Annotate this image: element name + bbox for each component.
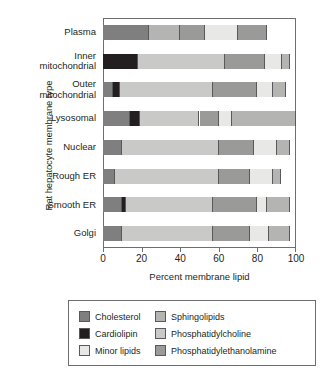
legend-item-minor[interactable]: Minor lipids: [79, 345, 155, 356]
bar-segment-pc: [126, 197, 213, 212]
legend-label: Cholesterol: [95, 312, 141, 322]
bar-segment-pe: [225, 54, 266, 69]
bar-row: [103, 226, 296, 241]
legend-item-cholesterol[interactable]: Cholesterol: [79, 311, 155, 322]
bar-segment-pc: [115, 169, 219, 184]
bar-segment-minor: [219, 111, 233, 126]
bar-segment-sphingolipids: [267, 197, 290, 212]
bar-segment-sphingolipids: [149, 25, 180, 40]
y-axis-tick-label: Smooth ER: [10, 200, 96, 211]
bar-segment-pc: [138, 54, 225, 69]
y-axis-tick-label: Rough ER: [10, 171, 96, 182]
bar-segment-cholesterol: [103, 197, 122, 212]
bars-layer: [103, 18, 296, 248]
legend-label: Phosphatidylcholine: [171, 329, 251, 339]
bar-segment-cholesterol: [103, 169, 115, 184]
legend-swatch-icon: [155, 328, 166, 339]
bar-segment-cholesterol: [103, 25, 149, 40]
y-axis-tick-label: Plasma: [10, 27, 96, 38]
bar-segment-pe: [213, 82, 257, 97]
y-axis-tick-label-line: Nuclear: [10, 142, 96, 153]
y-axis-tick-label: Lysosomal: [10, 113, 96, 124]
bar-segment-pe: [219, 140, 254, 155]
legend-item-pc[interactable]: Phosphatidylcholine: [155, 328, 311, 339]
x-axis-tick-label: 100: [288, 253, 305, 264]
bar-segment-minor: [250, 226, 269, 241]
y-axis-tick-label-line: mitochondrial: [10, 61, 96, 72]
legend-swatch-icon: [79, 345, 90, 356]
y-axis-tick-label-line: mitochondrial: [10, 90, 96, 101]
legend-label: Phosphatidylethanolamine: [171, 346, 277, 356]
x-axis-tick-mark: [103, 248, 104, 252]
bar-segment-sphingolipids: [282, 54, 290, 69]
x-axis-tick-mark: [257, 248, 258, 252]
x-axis-tick-label: 80: [252, 253, 263, 264]
x-axis-tick-label: 60: [213, 253, 224, 264]
bar-segment-minor: [265, 54, 282, 69]
bar-segment-pc: [122, 140, 219, 155]
bar-segment-pe: [238, 25, 267, 40]
bar-segment-minor: [254, 140, 277, 155]
bar-segment-sphingolipids: [269, 226, 290, 241]
legend-item-cardiolipin[interactable]: Cardiolipin: [79, 328, 155, 339]
x-axis-tick-mark: [142, 248, 143, 252]
bar-segment-cardiolipin: [103, 54, 138, 69]
y-axis-tick-label: Innermitochondrial: [10, 51, 96, 72]
stacked-bar-chart-figure: Rat hepatocyte membrane type PlasmaInner…: [0, 0, 326, 378]
y-axis-tick-label-line: Golgi: [10, 228, 96, 239]
y-axis-tick-label: Outermitochondrial: [10, 79, 96, 100]
bar-segment-sphingolipids: [277, 140, 291, 155]
bar-row: [103, 54, 296, 69]
bar-segment-sphingolipids: [273, 169, 281, 184]
bar-segment-pc: [140, 111, 200, 126]
bar-segment-minor: [257, 197, 267, 212]
bar-segment-sphingolipids: [232, 111, 296, 126]
y-axis-tick-label-line: Lysosomal: [10, 113, 96, 124]
bar-row: [103, 197, 296, 212]
legend-label: Minor lipids: [95, 346, 141, 356]
y-axis-category-labels: PlasmaInnermitochondrialOutermitochondri…: [14, 18, 100, 246]
bar-segment-pe: [219, 169, 250, 184]
legend-item-pe[interactable]: Phosphatidylethanolamine: [155, 345, 311, 356]
bar-segment-minor: [257, 82, 272, 97]
legend-item-sphingolipids[interactable]: Sphingolipids: [155, 311, 311, 322]
bar-segment-cardiolipin: [130, 111, 140, 126]
y-axis-tick-label: Golgi: [10, 228, 96, 239]
x-axis-tick-mark: [180, 248, 181, 252]
bar-segment-pe: [213, 226, 250, 241]
x-axis-tick-mark: [295, 248, 296, 252]
legend-box: CholesterolSphingolipidsCardiolipinPhosp…: [68, 300, 316, 366]
bar-segment-pe: [213, 197, 257, 212]
bar-segment-pc: [122, 226, 213, 241]
legend-swatch-icon: [155, 311, 166, 322]
legend-grid: CholesterolSphingolipidsCardiolipinPhosp…: [79, 308, 311, 359]
legend-swatch-icon: [79, 328, 90, 339]
bar-segment-cholesterol: [103, 140, 122, 155]
bar-segment-pc: [120, 82, 213, 97]
x-axis-title: Percent membrane lipid: [103, 271, 296, 282]
legend-swatch-icon: [155, 345, 166, 356]
bar-segment-pe: [200, 111, 219, 126]
bar-segment-cardiolipin: [113, 82, 121, 97]
bar-segment-pe: [180, 25, 205, 40]
bar-segment-cholesterol: [103, 111, 130, 126]
x-axis-tick-label: 0: [100, 253, 106, 264]
bar-row: [103, 140, 296, 155]
bar-segment-sphingolipids: [273, 82, 287, 97]
bar-row: [103, 169, 296, 184]
legend-label: Sphingolipids: [171, 312, 225, 322]
legend-label: Cardiolipin: [95, 329, 138, 339]
bar-row: [103, 82, 296, 97]
y-axis-tick-label: Nuclear: [10, 142, 96, 153]
bar-segment-minor: [250, 169, 273, 184]
bar-row: [103, 111, 296, 126]
x-axis: 020406080100: [103, 248, 296, 272]
y-axis-tick-label-line: Rough ER: [10, 171, 96, 182]
bar-segment-minor: [205, 25, 238, 40]
x-axis-tick-label: 20: [136, 253, 147, 264]
y-axis-tick-label-line: Smooth ER: [10, 200, 96, 211]
x-axis-tick-label: 40: [175, 253, 186, 264]
bar-row: [103, 25, 296, 40]
bar-segment-cholesterol: [103, 82, 113, 97]
x-axis-tick-mark: [219, 248, 220, 252]
